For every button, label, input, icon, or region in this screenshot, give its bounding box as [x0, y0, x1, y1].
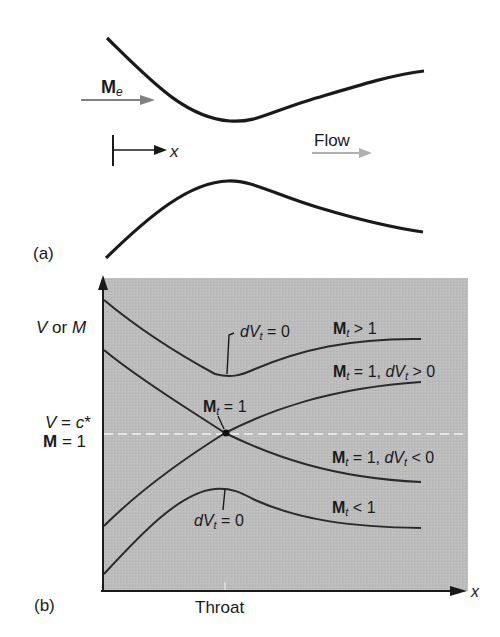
reference-label-velocity: V = c*: [45, 413, 91, 432]
label-subsonic: Mt < 1: [332, 499, 376, 518]
panel-b-label: (b): [34, 596, 55, 615]
reference-label-mach: M = 1: [43, 432, 86, 451]
nozzle-flow-diagram: Me x Flow (a): [0, 0, 500, 637]
x-axis-label: x: [470, 583, 480, 600]
nozzle-upper-wall: [107, 38, 424, 121]
y-axis-label: V or M: [36, 318, 87, 337]
panel-a-label: (a): [33, 244, 54, 263]
sonic-point-marker: [223, 430, 230, 437]
annotation-bottom-max: dVt = 0: [194, 512, 244, 531]
panel-a-nozzle: Me x Flow (a): [33, 38, 424, 263]
flow-label: Flow: [314, 131, 351, 150]
annotation-sonic-point: Mt = 1: [203, 398, 247, 417]
panel-b-chart: dVt = 0 dVt = 0 Mt = 1 Mt > 1 Mt = 1, dV…: [34, 275, 480, 617]
throat-label: Throat: [195, 598, 244, 617]
x-axis-symbol-a: x: [169, 142, 179, 161]
annotation-top-min: dVt = 0: [240, 323, 290, 342]
inlet-mach-label: Me: [101, 77, 123, 99]
nozzle-lower-wall: [106, 181, 423, 258]
x-origin-marker: [113, 135, 167, 166]
label-supersonic: Mt > 1: [333, 320, 377, 339]
